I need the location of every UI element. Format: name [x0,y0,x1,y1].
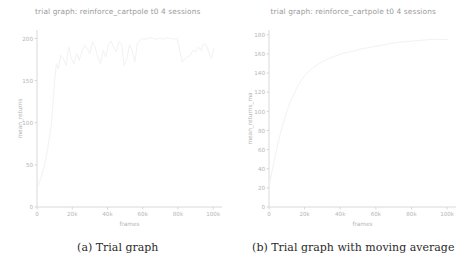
x-tick-label: 0 [35,211,39,217]
caption-b: (b) Trial graph with moving average [236,232,471,266]
x-tick-label: 40k [102,211,113,217]
figure-panels-row: trial graph: reinforce_cartpole t0 4 ses… [0,0,471,232]
x-tick-label: 40k [335,211,346,217]
y-tick-label: 150 [22,78,33,84]
x-tick-label: 100k [206,211,221,217]
x-axis-label: frames [352,221,372,227]
panel-b-trial-graph-ma: trial graph: reinforce_cartpole t0 4 ses… [236,0,471,232]
x-tick-label: 20k [67,211,78,217]
y-tick-label: 140 [254,70,265,76]
y-tick-label: 40 [257,166,265,172]
y-tick-label: 180 [254,32,265,38]
y-tick-label: 20 [257,185,265,191]
y-tick-label: 100 [254,109,265,115]
y-tick-label: 0 [261,204,265,210]
x-tick-label: 60k [370,211,381,217]
y-tick-label: 50 [26,162,34,168]
x-tick-label: 100k [440,211,455,217]
x-tick-label: 80k [406,211,417,217]
panel-a-plot: 050100150200020k40k60k80k100kframesmean_… [0,0,235,232]
x-axis-label: frames [119,221,139,227]
panel-b-plot: 020406080100120140160180020k40k60k80k100… [236,0,471,232]
y-tick-label: 100 [22,120,33,126]
y-tick-label: 0 [29,204,33,210]
y-axis-label: mean_returns_ma [247,92,254,145]
caption-a: (a) Trial graph [0,232,236,266]
y-tick-label: 200 [22,36,33,42]
x-tick-label: 20k [299,211,310,217]
x-tick-label: 0 [267,211,271,217]
x-tick-label: 60k [138,211,149,217]
figure-caption-row: (a) Trial graph (b) Trial graph with mov… [0,232,471,266]
y-tick-label: 60 [257,147,265,153]
y-tick-label: 80 [257,128,265,134]
y-tick-label: 160 [254,51,265,57]
y-axis-label: mean_returns [17,98,24,138]
x-tick-label: 80k [173,211,184,217]
data-line-mean_returns [37,38,214,189]
data-line-mean_returns_ma [269,40,448,186]
panel-a-trial-graph: trial graph: reinforce_cartpole t0 4 ses… [0,0,236,232]
y-tick-label: 120 [254,89,265,95]
